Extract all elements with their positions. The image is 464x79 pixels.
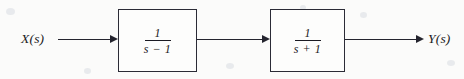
- scan-speckle: [6, 8, 15, 15]
- scan-speckle: [226, 63, 234, 69]
- connector-block1-to-block2: [197, 39, 263, 40]
- scan-speckle: [360, 12, 367, 18]
- scan-speckle: [447, 60, 455, 66]
- fraction-2: 1 s + 1: [271, 27, 344, 55]
- fraction-denominator: s + 1: [291, 41, 324, 55]
- arrowhead-icon: [416, 35, 424, 43]
- input-signal-label: X(s): [21, 31, 44, 47]
- fraction-numerator: 1: [302, 27, 314, 40]
- connector-block2-to-output: [345, 39, 421, 40]
- output-signal-label: Y(s): [428, 31, 451, 47]
- connector-input-to-block1: [58, 39, 111, 40]
- block-diagram-canvas: X(s) 1 s − 1 1 s + 1 Y(s): [0, 0, 464, 79]
- fraction-numerator: 1: [152, 27, 164, 40]
- fraction-denominator: s − 1: [141, 41, 174, 55]
- arrowhead-icon: [262, 35, 270, 43]
- fraction-1: 1 s − 1: [119, 27, 196, 55]
- transfer-function-block-2: 1 s + 1: [270, 9, 345, 72]
- transfer-function-block-1: 1 s − 1: [118, 9, 197, 72]
- scan-speckle: [84, 68, 91, 74]
- arrowhead-icon: [110, 35, 118, 43]
